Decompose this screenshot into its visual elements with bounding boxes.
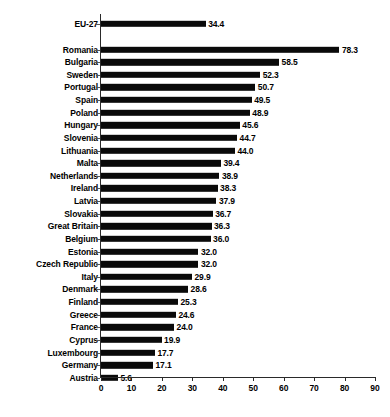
x-tick [253, 377, 254, 381]
x-tick-label: 50 [249, 383, 258, 393]
bar [101, 46, 339, 52]
y-tick [96, 125, 100, 126]
category-label: Great Britain [48, 222, 98, 231]
category-label: Lithuania [61, 146, 98, 155]
y-tick [96, 151, 100, 152]
bar [101, 248, 198, 254]
x-tick [284, 377, 285, 381]
bar-value-label: 37.9 [216, 197, 234, 206]
bar-value-label: 24.6 [176, 310, 194, 319]
bar [101, 59, 279, 65]
category-label: Malta [77, 159, 98, 168]
category-label: Luxembourg [48, 348, 98, 357]
bar-value-label: 36.0 [211, 234, 229, 243]
bar-row: Sweden52.3 [0, 69, 390, 81]
y-tick [96, 75, 100, 76]
y-tick [96, 252, 100, 253]
bar-row: Great Britain36.3 [0, 220, 390, 232]
y-tick [96, 201, 100, 202]
y-tick [96, 315, 100, 316]
y-tick [96, 214, 100, 215]
y-tick [96, 138, 100, 139]
category-label: Romania [63, 45, 98, 54]
bar [101, 122, 240, 128]
bar-row: Bulgaria58.5 [0, 56, 390, 68]
bar-row: Romania78.3 [0, 44, 390, 56]
bar [101, 210, 213, 216]
x-tick [375, 377, 376, 381]
bar-row: Portugal50.7 [0, 81, 390, 93]
bar-row: EU-2734.4 [0, 18, 390, 30]
bar-value-label: 38.9 [219, 171, 237, 180]
y-tick [96, 176, 100, 177]
x-tick [162, 377, 163, 381]
bar-value-label: 29.9 [192, 272, 210, 281]
y-tick [96, 226, 100, 227]
category-label: Austria [69, 373, 98, 382]
y-axis-line [100, 14, 101, 377]
x-tick-label: 90 [370, 383, 379, 393]
x-tick-label: 60 [279, 383, 288, 393]
bar-value-label: 19.9 [162, 335, 180, 344]
bar [101, 299, 178, 305]
y-tick [96, 289, 100, 290]
bar [101, 337, 162, 343]
bar-row: Hungary45.6 [0, 119, 390, 131]
category-label: Cyprus [69, 335, 98, 344]
bar-value-label: 39.4 [221, 159, 239, 168]
bar-chart: EU-2734.4Romania78.3Bulgaria58.5Sweden52… [0, 0, 390, 417]
category-label: Poland [70, 108, 98, 117]
x-tick [223, 377, 224, 381]
x-tick-label: 80 [340, 383, 349, 393]
y-tick [96, 302, 100, 303]
bar-value-label: 50.7 [255, 83, 273, 92]
category-label: Czech Republic [36, 260, 98, 269]
bar [101, 311, 176, 317]
y-tick [96, 264, 100, 265]
bar-row: Denmark28.6 [0, 283, 390, 295]
bar-row: Latvia37.9 [0, 195, 390, 207]
category-label: Estonia [68, 247, 98, 256]
bar-row: Poland48.9 [0, 107, 390, 119]
bar-value-label: 44.0 [235, 146, 253, 155]
category-label: Ireland [71, 184, 98, 193]
y-tick [96, 277, 100, 278]
x-tick [345, 377, 346, 381]
bar-row: Spain49.5 [0, 94, 390, 106]
bar-value-label: 24.0 [174, 323, 192, 332]
bar [101, 97, 252, 103]
bar-row: Ireland38.3 [0, 182, 390, 194]
bar-row: Slovenia44.7 [0, 132, 390, 144]
x-tick [192, 377, 193, 381]
y-tick [96, 340, 100, 341]
bar-row: Belgium36.0 [0, 233, 390, 245]
bar [101, 173, 219, 179]
y-tick [96, 188, 100, 189]
bar-value-label: 36.7 [213, 209, 231, 218]
bar [101, 349, 155, 355]
x-tick-label: 70 [309, 383, 318, 393]
category-label: Finland [68, 298, 98, 307]
bar-row: Malta39.4 [0, 157, 390, 169]
bar-value-label: 28.6 [188, 285, 206, 294]
x-tick-label: 30 [188, 383, 197, 393]
bar [101, 84, 255, 90]
category-label: Belgium [65, 234, 98, 243]
x-tick-label: 10 [127, 383, 136, 393]
x-tick-label: 0 [99, 383, 104, 393]
x-axis-line [100, 377, 376, 378]
bar-value-label: 32.0 [198, 247, 216, 256]
category-label: Spain [75, 96, 98, 105]
bar-row: Finland25.3 [0, 296, 390, 308]
bar-row: Italy29.9 [0, 271, 390, 283]
bar-value-label: 58.5 [279, 58, 297, 67]
bar-value-label: 48.9 [250, 108, 268, 117]
category-label: Netherlands [50, 171, 98, 180]
bar-value-label: 49.5 [252, 96, 270, 105]
y-tick [96, 239, 100, 240]
bar [101, 274, 192, 280]
y-tick [96, 62, 100, 63]
category-label: Hungary [64, 121, 98, 130]
bar [101, 324, 174, 330]
y-tick [96, 163, 100, 164]
